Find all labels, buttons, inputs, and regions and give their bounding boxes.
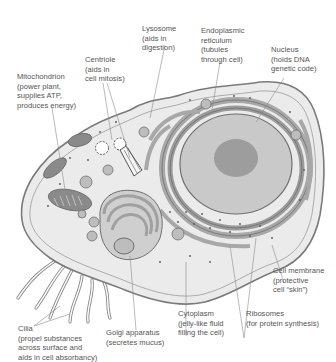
label-lysosome: Lysosome (aids in digestion) <box>142 24 176 53</box>
label-desc: (power plant, <box>17 82 76 92</box>
label-title: Centriole <box>85 55 125 65</box>
label-desc: (propel substances <box>18 334 97 344</box>
label-cytoplasm: Cytoplasm (jelly-like fluid filling the … <box>178 309 224 338</box>
animal-cell-diagram: Lysosome (aids in digestion) Endoplasmic… <box>0 0 336 362</box>
label-title: Nucleus <box>271 45 317 55</box>
label-desc: (aids in <box>142 34 176 44</box>
label-desc: (tubules <box>201 45 244 55</box>
label-desc: supplies ATP, <box>17 91 76 101</box>
label-desc: across surface and <box>18 343 97 353</box>
label-desc: digestion) <box>142 43 176 53</box>
label-desc: (aids in <box>85 65 125 75</box>
label-title: Golgi apparatus <box>106 328 164 338</box>
label-golgi-apparatus: Golgi apparatus (secretes mucus) <box>106 328 164 347</box>
label-desc: genetic code) <box>271 64 317 74</box>
golgi-apparatus-shape <box>100 190 162 259</box>
label-desc: reticulum <box>201 36 244 46</box>
label-title: Endoplasmic <box>201 26 244 36</box>
label-ribosomes: Ribosomes (for protein synthesis) <box>246 309 319 328</box>
label-desc: (for protein synthesis) <box>246 319 319 329</box>
label-title: Lysosome <box>142 24 176 34</box>
label-title: Mitochondrion <box>17 72 76 82</box>
label-desc: cell mitosis) <box>85 74 125 84</box>
label-cell-membrane: Cell membrane (protective cell “skin”) <box>273 266 325 295</box>
label-title: Cell membrane <box>273 266 325 276</box>
label-nucleus: Nucleus (holds DNA genetic code) <box>271 45 317 74</box>
label-centriole: Centriole (aids in cell mitosis) <box>85 55 125 84</box>
label-desc: aids in cell absorbancy) <box>18 353 97 362</box>
label-desc: produces energy) <box>17 101 76 111</box>
label-title: Ribosomes <box>246 309 319 319</box>
label-desc: filling the cell) <box>178 328 224 338</box>
nucleolus-shape <box>214 139 258 177</box>
label-title: Cytoplasm <box>178 309 224 319</box>
label-cilia: Cilia (propel substances across surface … <box>18 324 97 362</box>
label-desc: through cell) <box>201 55 244 65</box>
label-title: Cilia <box>18 324 97 334</box>
label-mitochondrion: Mitochondrion (power plant, supplies ATP… <box>17 72 76 110</box>
label-endoplasmic-reticulum: Endoplasmic reticulum (tubules through c… <box>201 26 244 64</box>
label-desc: (holds DNA <box>271 55 317 65</box>
label-desc: (jelly-like fluid <box>178 319 224 329</box>
label-desc: cell “skin”) <box>273 285 325 295</box>
label-desc: (protective <box>273 276 325 286</box>
label-desc: (secretes mucus) <box>106 338 164 348</box>
